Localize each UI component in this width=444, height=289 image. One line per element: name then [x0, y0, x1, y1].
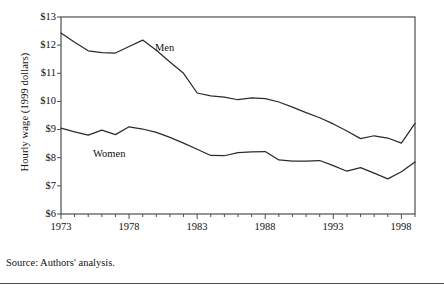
series-label-women: Women: [93, 148, 125, 159]
plot-area: [0, 0, 444, 289]
wage-trend-figure: Hourly wage (1999 dollars) $13 $12 $11 $…: [0, 0, 444, 289]
series-line-men: [61, 33, 415, 143]
bottom-divider: [0, 283, 444, 284]
source-note: Source: Authors' analysis.: [6, 257, 115, 268]
x-axis-ticks: [61, 214, 415, 219]
series-label-men: Men: [155, 42, 174, 53]
